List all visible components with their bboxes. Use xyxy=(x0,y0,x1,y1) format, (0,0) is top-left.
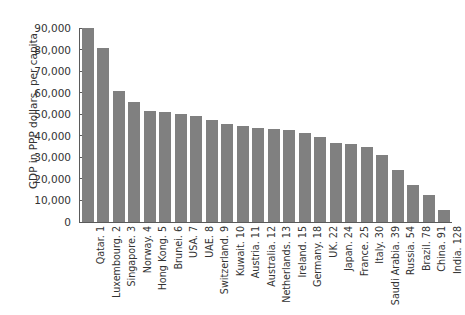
bar xyxy=(159,112,171,222)
bar xyxy=(392,170,404,222)
bar xyxy=(407,185,419,222)
bar xyxy=(128,102,140,222)
bar-chart: GDP in PPP dollars, per capita 010,00020… xyxy=(0,0,465,315)
x-axis-tick-label: Australia. 12 xyxy=(265,226,278,312)
bars-group xyxy=(80,28,452,222)
x-axis-tick-label: Qatar. 1 xyxy=(94,226,107,312)
x-axis-tick-label: Switzerland. 9 xyxy=(218,226,231,312)
y-axis-tick-label: 70,000 xyxy=(34,63,71,79)
bar xyxy=(190,116,202,222)
y-axis-tick-label: 40,000 xyxy=(34,128,71,144)
bar xyxy=(144,111,156,222)
x-axis-tick-label: Kuwait. 10 xyxy=(234,226,247,312)
x-axis-tick-label: Germany. 18 xyxy=(311,226,324,312)
bar xyxy=(206,120,218,222)
bar xyxy=(82,28,94,222)
x-axis-tick-label: Saudi Arabia. 39 xyxy=(389,226,402,312)
x-axis-tick-label: India. 128 xyxy=(451,226,464,312)
bar xyxy=(314,137,326,222)
x-axis-tick-label: Norway. 4 xyxy=(141,226,154,312)
bar xyxy=(252,128,264,222)
x-axis-tick-label: Russia. 54 xyxy=(404,226,417,312)
x-axis-tick-label: Hong Kong. 5 xyxy=(156,226,169,312)
bar xyxy=(113,91,125,222)
x-axis-tick-label: Ireland. 15 xyxy=(296,226,309,312)
bar xyxy=(423,195,435,222)
x-axis-tick-label: Italy. 30 xyxy=(373,226,386,312)
x-axis-tick-label: China. 91 xyxy=(435,226,448,312)
x-axis-tick-label: USA. 7 xyxy=(187,226,200,312)
x-axis-tick-label: Singapore. 3 xyxy=(125,226,138,312)
bar xyxy=(361,147,373,222)
bar xyxy=(345,144,357,222)
x-axis-tick-label: Luxembourg. 2 xyxy=(110,226,123,312)
x-axis-tick-label: UK. 22 xyxy=(327,226,340,312)
y-axis-tick-label: 30,000 xyxy=(34,149,71,165)
x-axis-tick-label: Brunei. 6 xyxy=(172,226,185,312)
y-axis-tick-label: 10,000 xyxy=(34,192,71,208)
x-axis-labels: Qatar. 1Luxembourg. 2Singapore. 3Norway.… xyxy=(80,226,452,315)
bar xyxy=(237,126,249,222)
x-axis-tick-label: UAE. 8 xyxy=(203,226,216,312)
x-axis-tick-label: Netherlands. 13 xyxy=(280,226,293,312)
x-axis-tick-label: Japan. 24 xyxy=(342,226,355,312)
x-axis-line xyxy=(79,222,452,223)
y-axis-tick-label: 0 xyxy=(64,214,71,230)
x-axis-tick-label: Brazil. 78 xyxy=(420,226,433,312)
bar xyxy=(97,48,109,222)
bar xyxy=(299,133,311,222)
bar xyxy=(221,124,233,222)
y-axis-tick-label: 60,000 xyxy=(34,85,71,101)
y-axis-tick-label: 20,000 xyxy=(34,171,71,187)
bar xyxy=(268,129,280,222)
bar xyxy=(376,155,388,222)
y-axis-tick-label: 50,000 xyxy=(34,106,71,122)
bar xyxy=(438,210,450,222)
y-axis-tick-label: 90,000 xyxy=(34,20,71,36)
x-axis-tick-label: Austria. 11 xyxy=(249,226,262,312)
x-axis-tick-label: France. 25 xyxy=(358,226,371,312)
bar xyxy=(283,130,295,222)
bar xyxy=(175,114,187,222)
bar xyxy=(330,143,342,222)
y-axis-tick-label: 80,000 xyxy=(34,42,71,58)
